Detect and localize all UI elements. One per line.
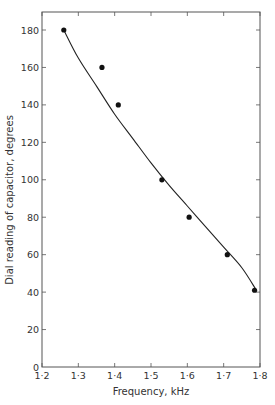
data-point (252, 288, 257, 293)
y-tick-label: 60 (27, 249, 39, 260)
data-point (99, 65, 104, 70)
data-point (187, 215, 192, 220)
fitted-curve-line (64, 30, 257, 290)
x-axis-ticks: 1·21·31·41·51·61·71·8 (34, 12, 267, 381)
y-tick-label: 20 (27, 324, 39, 335)
y-tick-label: 140 (21, 99, 39, 110)
x-tick-label: 1·7 (216, 370, 231, 381)
x-tick-label: 1·3 (71, 370, 86, 381)
y-tick-label: 160 (21, 62, 39, 73)
x-tick-label: 1·8 (252, 370, 267, 381)
data-point (225, 252, 230, 257)
plot-frame (42, 12, 260, 367)
y-tick-label: 120 (21, 137, 39, 148)
y-axis-ticks: 020406080100120140160180 (21, 25, 260, 373)
y-tick-label: 100 (21, 174, 39, 185)
x-tick-label: 1·5 (143, 370, 158, 381)
data-points (61, 27, 257, 292)
y-tick-label: 180 (21, 25, 39, 36)
y-tick-label: 40 (27, 287, 39, 298)
y-axis-label: Dial reading of capacitor, degrees (4, 115, 15, 285)
data-point (159, 177, 164, 182)
x-axis-label: Frequency, kHz (113, 386, 190, 397)
fitted-curve (64, 30, 257, 290)
data-point (116, 102, 121, 107)
y-tick-label: 0 (33, 362, 39, 373)
plot-border (42, 12, 260, 367)
frequency-dial-chart: 1·21·31·41·51·61·71·8 020406080100120140… (0, 0, 275, 405)
x-tick-label: 1·6 (180, 370, 195, 381)
y-tick-label: 80 (27, 212, 39, 223)
x-tick-label: 1·4 (107, 370, 122, 381)
data-point (61, 27, 66, 32)
